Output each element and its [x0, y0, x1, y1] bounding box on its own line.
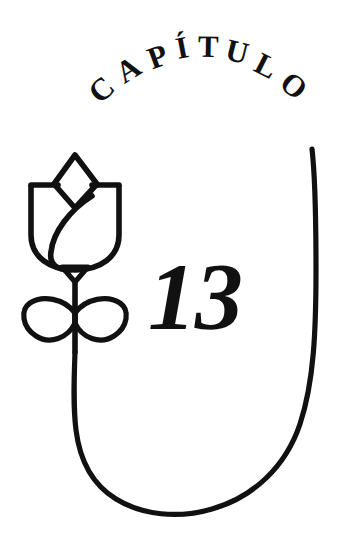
chapter-number: 13: [148, 249, 242, 345]
rose-bud-outer-cup: [31, 185, 119, 270]
leaf-left: [24, 299, 75, 340]
arc-letter-4: T: [198, 31, 219, 62]
leaf-right: [75, 299, 126, 340]
chapter-opener-page: C A P Í T U L O 13: [0, 0, 348, 543]
